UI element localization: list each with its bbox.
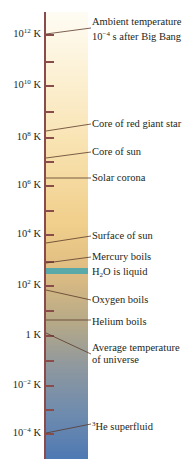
minor-tick bbox=[45, 261, 54, 263]
annotation-helium-boils: Helium boils bbox=[92, 316, 147, 328]
minor-tick bbox=[45, 360, 54, 362]
annotation-oxygen-boils: Oxygen boils bbox=[92, 294, 148, 306]
tick-label-1e-4: 10−4 K bbox=[13, 427, 41, 439]
major-tick bbox=[45, 285, 54, 287]
temperature-gradient-bar bbox=[45, 12, 88, 459]
annotation-universe-average: Average temperature of universe bbox=[92, 342, 180, 366]
tick-label-1e2: 102 K bbox=[17, 279, 41, 291]
minor-tick bbox=[45, 310, 54, 312]
minor-tick bbox=[45, 210, 54, 212]
minor-tick bbox=[45, 409, 54, 411]
annotation-surface-of-sun: Surface of sun bbox=[92, 230, 153, 242]
tick-label-1e4: 104 K bbox=[17, 228, 41, 240]
major-tick bbox=[45, 433, 54, 435]
major-tick bbox=[45, 85, 54, 87]
tick-label-1e8: 108 K bbox=[17, 131, 41, 143]
scale-axis bbox=[44, 12, 46, 459]
tick-label-1e12: 1012 K bbox=[13, 28, 41, 40]
major-tick bbox=[45, 34, 54, 36]
tick-label-1e-2: 10−2 K bbox=[13, 379, 41, 391]
liquid-water-band bbox=[46, 268, 88, 274]
tick-label-1: 1 K bbox=[26, 330, 41, 341]
annotation-he3-superfluid: 3He superfluid bbox=[92, 418, 153, 433]
tick-label-1e10: 1010 K bbox=[13, 79, 41, 91]
annotation-mercury-boils: Mercury boils bbox=[92, 251, 151, 263]
annotation-red-giant-core: Core of red giant star bbox=[92, 118, 181, 130]
major-tick bbox=[45, 137, 54, 139]
major-tick bbox=[45, 185, 54, 187]
tick-label-1e6: 106 K bbox=[17, 179, 41, 191]
annotation-solar-corona: Solar corona bbox=[92, 172, 145, 184]
minor-tick bbox=[45, 111, 54, 113]
minor-tick bbox=[45, 161, 54, 163]
annotation-big-bang: Ambient temperature 10−4 s after Big Ban… bbox=[92, 16, 182, 43]
annotation-water-liquid: H2O is liquid bbox=[92, 266, 147, 281]
major-tick bbox=[45, 335, 54, 337]
major-tick bbox=[45, 385, 54, 387]
major-tick bbox=[45, 234, 54, 236]
minor-tick bbox=[45, 61, 54, 63]
annotation-core-of-sun: Core of sun bbox=[92, 146, 141, 158]
